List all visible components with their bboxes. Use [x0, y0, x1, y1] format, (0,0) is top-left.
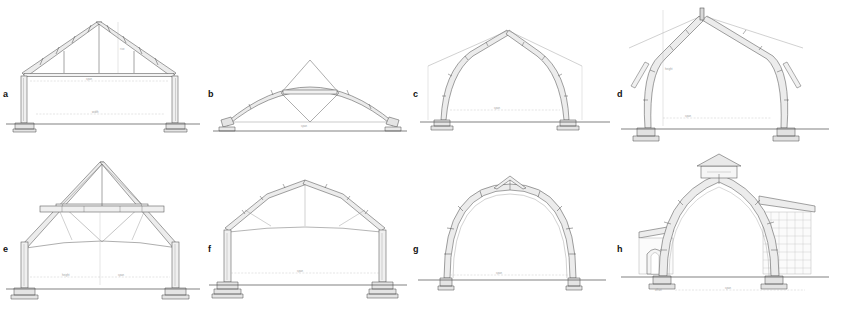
panel-b-dim-span: span: [301, 125, 307, 128]
panel-c-dim-span: span: [494, 107, 500, 110]
panel-label-c: c: [413, 90, 418, 99]
panel-h-dim-span: span: [725, 287, 731, 290]
panel-label-h: h: [617, 245, 623, 254]
panel-e: span height e: [0, 150, 210, 315]
panel-e-dim-span: span: [118, 274, 124, 277]
panel-a: span rise width a: [0, 0, 210, 150]
panel-label-g: g: [413, 245, 419, 254]
panel-f: span f: [205, 150, 415, 315]
figure-plate: span rise width a: [0, 0, 842, 315]
panel-label-d: d: [617, 90, 623, 99]
panel-a-dim-rise: rise: [120, 47, 125, 51]
panel-label-e: e: [3, 245, 8, 254]
panel-a-dim-width: width: [92, 110, 99, 114]
panel-a-dim-span: span: [86, 78, 92, 81]
panel-c: span c: [410, 0, 620, 150]
panel-h: span offset h: [615, 150, 842, 315]
panel-d-dim-span: span: [685, 115, 691, 118]
panel-g: span g: [410, 150, 620, 315]
panel-d: span height d: [615, 0, 842, 150]
panel-f-dim-span: span: [297, 270, 303, 273]
panel-b: span b: [205, 0, 415, 150]
panel-e-dim-height: height: [62, 273, 70, 277]
panel-g-dim-span: span: [496, 272, 502, 275]
panel-label-a: a: [3, 90, 8, 99]
panel-label-b: b: [208, 90, 214, 99]
panel-h-dim-offset: offset: [655, 288, 662, 292]
panel-label-f: f: [208, 245, 211, 254]
panel-d-dim-height: height: [665, 67, 673, 71]
